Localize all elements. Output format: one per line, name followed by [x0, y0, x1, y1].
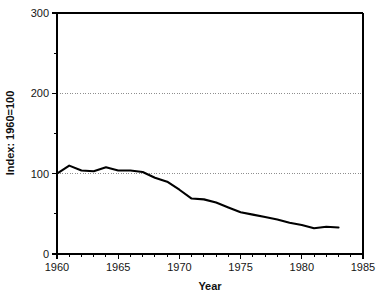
- y-tick-label-200: 200: [31, 87, 49, 99]
- x-tick-label-1985: 1985: [351, 261, 375, 273]
- y-tick-label-100: 100: [31, 168, 49, 180]
- x-tick-label-1980: 1980: [290, 261, 314, 273]
- x-tick-label-1960: 1960: [45, 261, 69, 273]
- chart-container: 0100200300 196019651970197519801985 Year…: [0, 0, 385, 299]
- x-tick-label-1975: 1975: [228, 261, 252, 273]
- x-axis-title: Year: [198, 280, 222, 292]
- y-tick-label-300: 300: [31, 7, 49, 19]
- x-tick-label-1970: 1970: [167, 261, 191, 273]
- x-tick-label-1965: 1965: [106, 261, 130, 273]
- y-tick-label-0: 0: [43, 248, 49, 260]
- y-axis-title: Index: 1960=100: [4, 91, 16, 176]
- line-chart: 0100200300 196019651970197519801985 Year…: [0, 0, 385, 299]
